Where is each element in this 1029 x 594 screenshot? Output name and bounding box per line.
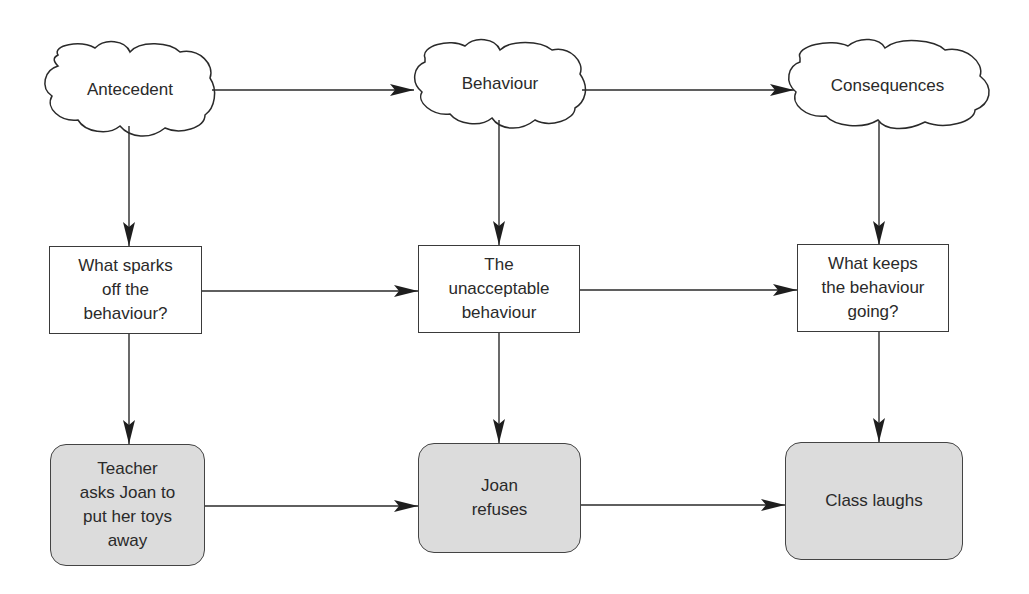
box-label: Joan refuses [472, 474, 528, 522]
box-consequences-question: What keeps the behaviour going? [797, 244, 949, 332]
box-antecedent-example: Teacher asks Joan to put her toys away [50, 444, 205, 566]
box-label: Teacher asks Joan to put her toys away [80, 457, 175, 553]
box-antecedent-question: What sparks off the behaviour? [49, 246, 202, 334]
box-label: What sparks off the behaviour? [78, 254, 172, 326]
cloud-behaviour: Behaviour [425, 64, 575, 104]
box-label: The unacceptable behaviour [448, 253, 549, 325]
box-label: Class laughs [825, 489, 922, 513]
cloud-antecedent: Antecedent [55, 70, 205, 110]
box-consequences-example: Class laughs [785, 442, 963, 560]
box-behaviour-example: Joan refuses [418, 443, 581, 553]
box-behaviour-question: The unacceptable behaviour [418, 245, 580, 333]
cloud-consequences: Consequences [795, 66, 980, 106]
box-label: What keeps the behaviour going? [821, 252, 924, 324]
